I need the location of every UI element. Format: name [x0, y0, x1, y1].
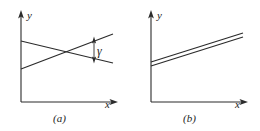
- data-line-upper-b: [151, 33, 243, 62]
- y-axis-label-a: y: [27, 10, 32, 21]
- data-line-lower-b: [151, 37, 243, 66]
- x-axis-label-a: x: [105, 99, 110, 110]
- y-axis-b: [148, 10, 154, 102]
- gamma-angle-label: γ: [97, 45, 102, 57]
- y-axis-a: [18, 10, 24, 102]
- y-axis-label-b: y: [157, 10, 162, 21]
- panel-caption-b: (b): [183, 113, 196, 124]
- x-axis-b: [151, 99, 248, 105]
- panel-a: y x γ (a): [0, 0, 130, 131]
- x-axis-a: [21, 99, 118, 105]
- figure-container: y x γ (a) y x (b): [0, 0, 260, 131]
- panel-caption-a: (a): [53, 113, 66, 124]
- panel-b: y x (b): [130, 0, 260, 131]
- x-axis-label-b: x: [235, 99, 240, 110]
